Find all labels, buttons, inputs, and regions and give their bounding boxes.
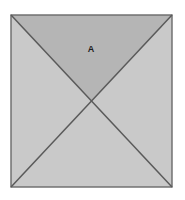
region-label-a: A	[88, 44, 95, 54]
square-diagonals-figure: A	[0, 0, 185, 200]
figure-root: A	[0, 0, 185, 200]
